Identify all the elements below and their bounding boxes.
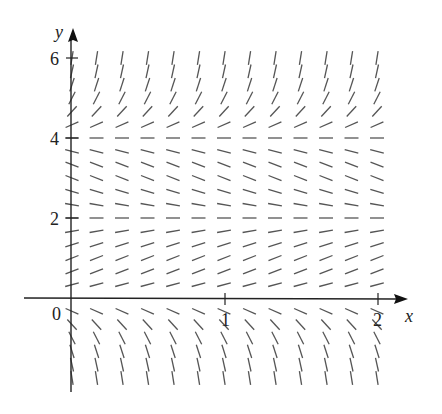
slope-segment	[320, 256, 333, 261]
slope-segment	[217, 243, 230, 247]
slope-segment	[116, 162, 129, 167]
slope-segment	[294, 176, 307, 181]
slope-segment	[167, 269, 180, 274]
slope-segment	[219, 106, 228, 116]
x-axis	[24, 298, 398, 299]
slope-segment	[345, 256, 358, 261]
slope-segment	[376, 51, 378, 65]
slope-segment	[117, 106, 127, 116]
slope-segment	[269, 256, 282, 261]
slope-segment	[141, 162, 154, 167]
slope-segment	[192, 256, 205, 261]
slope-segment	[119, 92, 125, 105]
slope-segment	[120, 78, 124, 91]
slope-segment	[299, 371, 301, 385]
slope-segment	[121, 65, 124, 79]
slope-segment	[298, 345, 302, 358]
slope-segment	[90, 269, 103, 274]
slope-segment	[297, 332, 303, 344]
slope-segment	[320, 176, 333, 181]
slope-segment	[370, 150, 384, 154]
slope-segment	[223, 51, 225, 65]
slope-segment	[243, 150, 257, 154]
slope-segment	[192, 309, 205, 315]
slope-segment	[141, 283, 155, 287]
slope-segment	[273, 345, 277, 358]
slope-segment	[294, 269, 307, 274]
slope-segment	[90, 256, 103, 261]
slope-segment	[268, 189, 281, 193]
slope-segment	[347, 106, 357, 116]
slope-segment	[325, 371, 327, 385]
slope-segment	[323, 332, 329, 344]
slope-segment	[66, 269, 79, 274]
slope-segment	[192, 283, 206, 287]
slope-segment	[141, 176, 154, 181]
slope-segment	[272, 92, 278, 105]
slope-segment	[116, 256, 129, 261]
slope-segment	[115, 189, 128, 193]
slope-segment	[90, 176, 103, 181]
slope-segment	[90, 283, 104, 287]
slope-segment	[116, 269, 129, 274]
slope-segment	[196, 345, 200, 358]
slope-segment	[221, 92, 227, 105]
slope-segment	[299, 51, 301, 65]
slope-segment	[345, 204, 359, 206]
slope-segment	[141, 256, 154, 261]
slope-segment	[223, 358, 226, 372]
slope-segment	[375, 345, 379, 358]
slope-segment	[345, 189, 358, 193]
slope-segment	[141, 204, 155, 206]
slope-segment	[325, 65, 328, 79]
slope-segment	[325, 358, 328, 372]
slope-segment	[146, 51, 148, 65]
slope-segment	[269, 176, 282, 181]
slope-segment	[376, 65, 379, 79]
y-axis-label: y	[53, 22, 63, 42]
slope-segment	[297, 92, 303, 105]
y-axis-arrow-icon	[68, 28, 78, 42]
slope-segment	[319, 283, 333, 287]
slope-segment	[268, 230, 282, 232]
slope-segment	[65, 189, 78, 193]
slope-segment	[172, 65, 175, 79]
slope-segment	[320, 122, 333, 128]
slope-segment	[65, 230, 79, 232]
slope-segment	[376, 371, 378, 385]
y-tick-label-2: 2	[50, 209, 59, 229]
slope-segment	[319, 204, 333, 206]
slope-segment	[141, 150, 155, 154]
slope-segment	[95, 65, 98, 79]
slope-segment	[320, 269, 333, 274]
slope-segment	[141, 309, 154, 315]
slope-segment	[69, 332, 75, 344]
slope-segment	[217, 189, 230, 193]
x-tick-label-1: 1	[221, 310, 230, 330]
slope-segment	[270, 106, 280, 116]
slope-segment	[376, 358, 379, 372]
slope-segment	[196, 78, 200, 91]
slope-segment	[115, 204, 129, 206]
slope-segment	[143, 320, 152, 330]
slope-segment	[270, 320, 279, 330]
slope-segment	[218, 122, 231, 128]
slope-segment	[141, 243, 154, 247]
slope-segment	[167, 176, 180, 181]
slope-segment	[167, 162, 180, 167]
slope-segment	[319, 189, 332, 193]
slope-segment	[69, 92, 75, 105]
slope-segment	[121, 358, 124, 372]
slope-segment	[294, 204, 308, 206]
slope-segment	[171, 78, 175, 91]
slope-segment	[67, 106, 76, 116]
slope-segment	[92, 106, 102, 116]
slope-field-chart: y 6 4 2 0 1 2 x	[0, 0, 442, 414]
slope-segment	[218, 176, 231, 181]
slope-segment	[172, 371, 174, 385]
slope-segment	[247, 78, 251, 91]
slope-segment	[268, 204, 282, 206]
slope-segment	[192, 150, 206, 154]
slope-segment	[272, 332, 278, 344]
slope-segment	[294, 189, 307, 193]
